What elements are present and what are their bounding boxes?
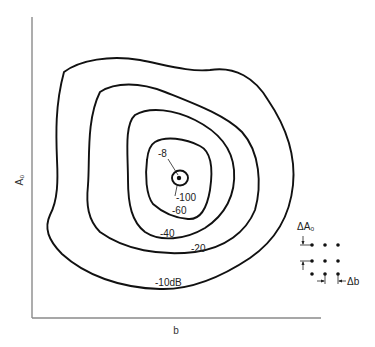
delta-b-label: Δb — [347, 276, 360, 287]
contour-diagram: b A₀ -8 -100 -60 -40 -20 -10dB ΔA₀ — [0, 0, 375, 347]
contour-minus-40 — [127, 110, 234, 238]
contour-label-minus-60: -60 — [172, 205, 187, 216]
contour-label-minus-40: -40 — [160, 228, 175, 239]
contour-label-minus-100: -100 — [176, 192, 196, 203]
peak-leader-line — [168, 159, 178, 175]
x-axis-label: b — [173, 325, 179, 336]
sampling-grid-inset: ΔA₀ Δb — [297, 221, 360, 287]
peak-point — [177, 176, 181, 180]
contour-label-minus-10db: -10dB — [155, 277, 182, 288]
peak-label: -8 — [158, 148, 167, 159]
contour-label-minus-20: -20 — [191, 243, 206, 254]
y-axis-label: A₀ — [14, 175, 25, 186]
contour-minus-10 — [47, 58, 293, 289]
delta-a-label: ΔA₀ — [297, 221, 315, 232]
